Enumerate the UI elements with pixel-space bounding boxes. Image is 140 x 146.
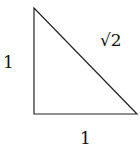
left-side-label: 1 (3, 52, 14, 72)
triangle-diagram: 1 √2 1 (0, 0, 140, 146)
right-triangle (34, 8, 137, 114)
bottom-side-label: 1 (80, 128, 91, 146)
hypotenuse-label: √2 (100, 30, 122, 50)
